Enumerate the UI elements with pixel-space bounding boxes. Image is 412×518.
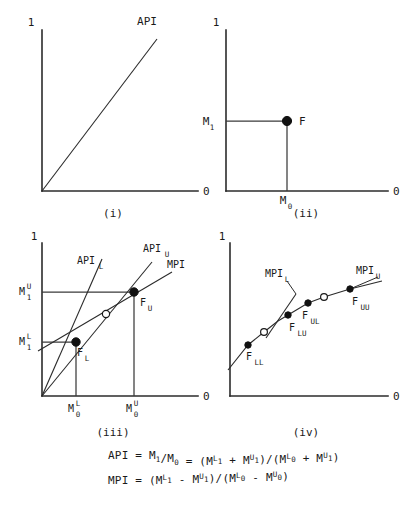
panel-iii-label-APIU: API U [143, 243, 169, 259]
panel-iv-point-label-FLU: F LU [289, 322, 307, 338]
panel-iv: 1 0 MPI L MPI U F LL F LU F UL F UU (iv) [219, 230, 400, 439]
panel-iv-point-label-FUL-base: F [302, 310, 308, 321]
panel-ii-id: (ii) [293, 207, 320, 220]
panel-iii-point-FL [72, 338, 80, 346]
panel-iii-label-MPI: MPI [167, 259, 185, 270]
panel-iv-y-top-label: 1 [219, 230, 226, 243]
panel-iii-x-tick-M0L-sub: 0 [76, 410, 81, 419]
panel-iii-x-tick-M0U: M 0 U [126, 399, 139, 419]
panel-ii-point-label: F [299, 115, 306, 128]
panel-iv-point-label-FLL-base: F [246, 351, 252, 362]
panel-iii-y-top-label: 1 [31, 230, 38, 243]
panel-iv-point-label-FUU: F UU [352, 296, 370, 312]
panel-iii-point-open-mid [102, 310, 109, 317]
panel-iii-point-FU [130, 288, 138, 296]
panel-iii-y-tick-M1U-base: M [19, 286, 25, 297]
panel-iv-point-label-FLU-base: F [289, 322, 295, 333]
panel-ii-y-tick-M1: M 1 [203, 115, 215, 132]
panel-iv-label-MPIU-base: MPI [356, 265, 374, 276]
panel-ii-y-top-label: 1 [213, 16, 220, 29]
panel-iv-label-MPIL-sub: L [285, 275, 290, 284]
panel-ii-x-right-label: 0 [393, 185, 400, 198]
panel-iii-point-label-FL: F L [77, 347, 90, 363]
panel-iii-api-L-line [42, 259, 102, 396]
panel-iii-x-right-label: 0 [203, 390, 210, 403]
panel-iv-point-open-lower [261, 329, 268, 336]
panel-iv-x-right-label: 0 [393, 390, 400, 403]
panel-iii-y-tick-M1L-sup: L [27, 332, 32, 341]
panel-ii-point-F [282, 116, 291, 125]
panel-iii-y-tick-M1L: M 1 L [19, 332, 32, 352]
panel-iii-label-APIL-sub: L [99, 262, 104, 271]
panel-iii-x-tick-M0U-sup: U [134, 399, 139, 408]
panel-iii-y-tick-M1U-sup: U [27, 282, 32, 291]
panel-iv-point-FLL [245, 342, 251, 348]
panel-iii: 1 0 M 1 U M 1 L M 0 L M 0 U API L [19, 230, 210, 439]
panel-iii-x-tick-M0L-sup: L [76, 399, 81, 408]
formula-block: API = M1/M0 = (ML1 + MU1)/(ML0 + MU1) MP… [108, 449, 339, 487]
mpi-formula: MPI = (ML1 - MU1)/(ML0 - MU0) [108, 470, 289, 487]
panel-iii-x-tick-M0L: M 0 L [68, 399, 81, 419]
panel-iii-y-tick-M1U-sub: 1 [27, 293, 32, 302]
panel-i-y-top-label: 1 [28, 16, 35, 29]
api-formula: API = M1/M0 = (ML1 + MU1)/(ML0 + MU1) [108, 449, 339, 468]
panel-iii-point-label-FU-base: F [140, 297, 146, 308]
panel-iii-point-label-FL-sub: L [85, 354, 90, 363]
panel-iii-label-APIL-base: API [77, 255, 95, 266]
panel-ii-x-tick-base: M [280, 194, 287, 207]
panel-i: 1 0 API (i) [28, 15, 210, 220]
panel-iv-label-MPIL-base: MPI [265, 268, 283, 279]
panel-ii-y-tick-base: M [203, 115, 210, 128]
panel-iii-x-tick-M0L-base: M [68, 403, 74, 414]
panel-ii-y-tick-sub: 1 [210, 123, 215, 132]
panel-iii-label-APIL: API L [77, 255, 104, 271]
panel-ii: 1 0 M 1 M 0 F (ii) [203, 16, 400, 220]
panel-iii-api-U-line [42, 262, 152, 396]
panel-i-api-line [42, 39, 157, 191]
panel-iv-point-label-FUL-sub: UL [310, 317, 320, 326]
panel-iii-point-label-FU: F U [140, 297, 152, 313]
panel-iii-label-APIU-subscript: U [165, 250, 170, 259]
four-panel-figure: 1 0 API (i) 1 0 M 1 M 0 F (ii) [0, 0, 412, 518]
panel-iv-point-open-upper [321, 294, 328, 301]
panel-iv-point-label-FUU-sub: UU [360, 303, 369, 312]
panel-ii-x-tick-M0: M 0 [280, 194, 293, 211]
panel-iv-point-FUU [347, 286, 353, 292]
panel-iii-y-tick-M1L-sub: 1 [27, 343, 32, 352]
panel-i-x-right-label: 0 [203, 185, 210, 198]
panel-iv-label-MPIL: MPI L [265, 268, 290, 284]
panel-iv-point-label-FUL: F UL [302, 310, 320, 326]
panel-iii-y-tick-M1U: M 1 U [19, 282, 31, 302]
panel-i-api-label: API [137, 15, 157, 28]
panel-iv-point-FLU [285, 312, 291, 318]
panel-iii-x-tick-M0U-base: M [126, 403, 132, 414]
panel-iv-label-MPIU-sub: U [376, 272, 381, 281]
panel-iii-x-tick-M0U-sub: 0 [134, 410, 139, 419]
panel-iv-label-MPIU: MPI U [356, 265, 380, 281]
panel-iv-point-label-FLU-sub: LU [297, 329, 306, 338]
panel-iv-point-label-FUU-base: F [352, 296, 358, 307]
panel-iii-y-tick-M1L-base: M [19, 336, 25, 347]
panel-iii-point-label-FU-sub: U [148, 304, 153, 313]
figure-container: 1 0 API (i) 1 0 M 1 M 0 F (ii) [0, 0, 412, 518]
panel-iv-point-label-FLL: F LL [246, 351, 264, 367]
panel-iv-point-label-FLL-sub: LL [254, 358, 264, 367]
panel-iv-id: (iv) [293, 426, 320, 439]
panel-iv-point-FUL [305, 300, 311, 306]
panel-i-id: (i) [103, 207, 123, 220]
panel-iii-label-APIU-base: API [143, 243, 161, 254]
panel-iii-point-label-FL-base: F [77, 347, 83, 358]
panel-iii-id: (iii) [96, 426, 129, 439]
